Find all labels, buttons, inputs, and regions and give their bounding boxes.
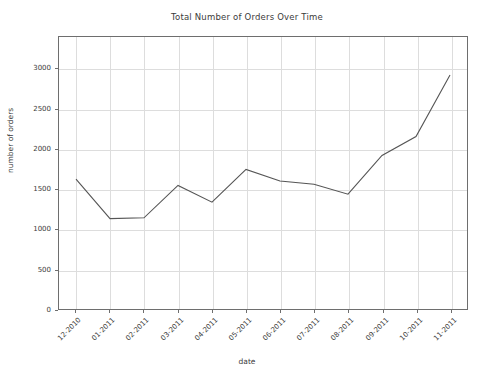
x-axis-tick-mark <box>280 310 281 313</box>
x-axis-tick-label: 08-2011 <box>322 316 356 350</box>
chart-figure: Total Number of Orders Over Time number … <box>0 0 494 376</box>
x-axis-tick-mark <box>348 310 349 313</box>
x-axis-tick-label: 01-2011 <box>83 316 117 350</box>
x-axis-tick-label: 04-2011 <box>185 316 219 350</box>
y-axis-tick-mark <box>55 229 58 230</box>
x-axis-tick-label: 05-2011 <box>220 316 254 350</box>
x-axis-tick-label: 11-2011 <box>425 316 459 350</box>
x-axis-label: date <box>0 357 494 366</box>
x-axis-tick-label: 12-2010 <box>49 316 83 350</box>
y-axis-tick-mark <box>55 109 58 110</box>
x-axis-tick-mark <box>109 310 110 313</box>
x-axis-tick-mark <box>383 310 384 313</box>
x-axis-tick-label: 03-2011 <box>151 316 185 350</box>
y-axis-tick-mark <box>55 189 58 190</box>
y-axis-tick-mark <box>55 149 58 150</box>
y-axis-tick-mark <box>55 270 58 271</box>
line-series <box>59 37 467 309</box>
x-axis-tick-label: 09-2011 <box>356 316 390 350</box>
x-axis-tick-mark <box>178 310 179 313</box>
data-polyline <box>76 75 450 219</box>
y-axis-tick-label: 2000 <box>7 145 51 153</box>
x-axis-tick-mark <box>246 310 247 313</box>
x-axis-tick-mark <box>451 310 452 313</box>
x-axis-tick-label: 02-2011 <box>117 316 151 350</box>
x-axis-tick-mark <box>143 310 144 313</box>
x-axis-tick-mark <box>417 310 418 313</box>
x-axis-tick-label: 07-2011 <box>288 316 322 350</box>
y-axis-tick-mark <box>55 68 58 69</box>
y-axis-tick-label: 1000 <box>7 225 51 233</box>
x-axis-tick-mark <box>75 310 76 313</box>
y-axis-tick-label: 2500 <box>7 105 51 113</box>
x-axis-tick-mark <box>314 310 315 313</box>
y-axis-tick-label: 0 <box>7 306 51 314</box>
plot-area <box>58 36 468 310</box>
chart-title: Total Number of Orders Over Time <box>0 12 494 22</box>
y-axis-tick-label: 1500 <box>7 185 51 193</box>
x-axis-tick-label: 06-2011 <box>254 316 288 350</box>
y-axis-tick-label: 3000 <box>7 64 51 72</box>
y-axis-tick-label: 500 <box>7 266 51 274</box>
y-axis-tick-mark <box>55 310 58 311</box>
x-axis-tick-label: 10-2011 <box>390 316 424 350</box>
y-axis-label: number of orders <box>6 108 15 173</box>
x-axis-tick-mark <box>212 310 213 313</box>
